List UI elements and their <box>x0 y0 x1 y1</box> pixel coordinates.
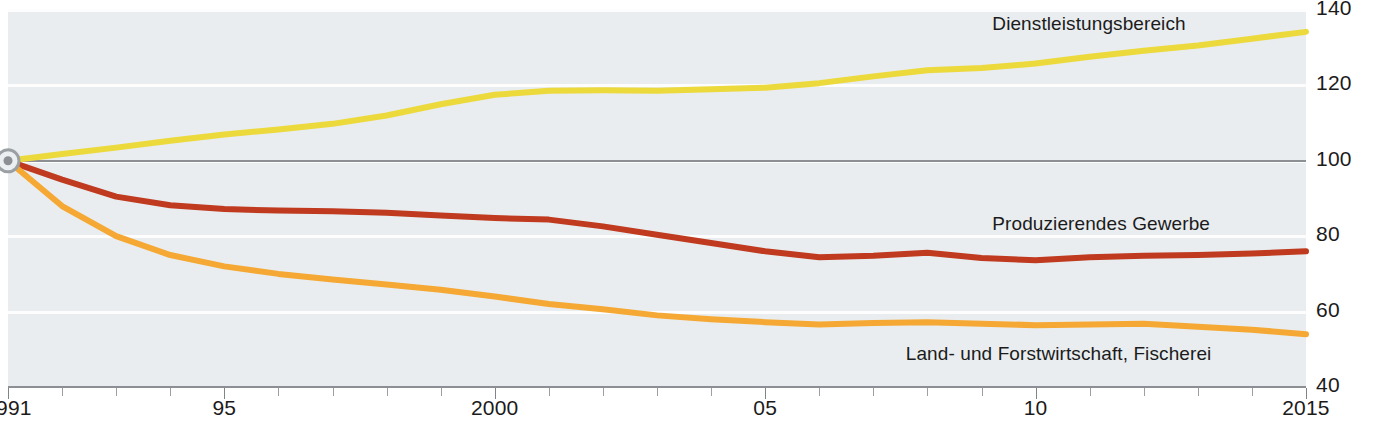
series-label-0: Dienstleistungsbereich <box>992 13 1185 35</box>
x-tick-1992 <box>62 388 63 396</box>
x-tick-1993 <box>116 388 117 396</box>
x-tick-1996 <box>278 388 279 396</box>
x-tick-1999 <box>441 388 442 396</box>
x-axis-label-1991: 1991 <box>0 396 32 420</box>
x-tick-2007 <box>873 388 874 396</box>
x-tick-2008 <box>927 388 928 396</box>
y-axis-label-120: 120 <box>1316 71 1352 95</box>
x-axis-label-2015: 2015 <box>1282 396 1330 420</box>
y-axis-label-100: 100 <box>1316 147 1352 171</box>
x-tick-2003 <box>657 388 658 396</box>
index-origin-marker-dot <box>4 156 13 165</box>
index-line-chart: 199195200005102015 406080100120140 Diens… <box>0 0 1373 436</box>
y-axis-label-60: 60 <box>1316 298 1340 322</box>
x-axis-label-2000: 2000 <box>471 396 519 420</box>
y-axis-label-80: 80 <box>1316 222 1340 246</box>
x-tick-1997 <box>333 388 334 396</box>
x-tick-1994 <box>170 388 171 396</box>
x-tick-2006 <box>819 388 820 396</box>
x-tick-2002 <box>603 388 604 396</box>
series-line-0 <box>8 32 1306 161</box>
x-tick-2001 <box>549 388 550 396</box>
x-tick-1998 <box>387 388 388 396</box>
x-tick-2009 <box>982 388 983 396</box>
x-tick-2004 <box>711 388 712 396</box>
series-line-1 <box>8 161 1306 261</box>
x-tick-2011 <box>1090 388 1091 396</box>
x-axis-label-10: 10 <box>1024 396 1048 420</box>
series-label-1: Produzierendes Gewerbe <box>992 213 1210 235</box>
series-line-2 <box>8 161 1306 334</box>
x-axis-label-05: 05 <box>753 396 777 420</box>
y-axis-label-140: 140 <box>1316 0 1352 20</box>
x-axis-label-95: 95 <box>212 396 236 420</box>
x-tick-2012 <box>1144 388 1145 396</box>
x-tick-2013 <box>1198 388 1199 396</box>
x-tick-2014 <box>1252 388 1253 396</box>
y-axis-label-40: 40 <box>1316 373 1340 397</box>
series-label-2: Land- und Forstwirtschaft, Fischerei <box>906 343 1212 365</box>
